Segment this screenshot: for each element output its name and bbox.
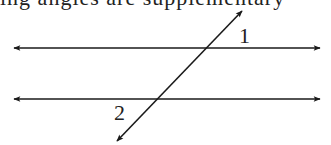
angle-label-1: 1 [239, 23, 250, 48]
angle-label-2: 2 [114, 100, 125, 125]
transversal-line [117, 11, 242, 141]
parallel-lines-diagram: 1 2 [0, 0, 331, 145]
